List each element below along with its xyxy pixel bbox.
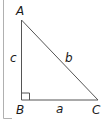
right-triangle-diagram: A B C c b a bbox=[0, 0, 107, 129]
vertex-a-label: A bbox=[15, 4, 24, 18]
side-b-label: b bbox=[65, 51, 73, 65]
vertex-c-label: C bbox=[92, 103, 101, 117]
triangle-svg: A B C c b a bbox=[0, 0, 107, 129]
side-c-label: c bbox=[10, 51, 17, 65]
vertex-b-label: B bbox=[16, 103, 24, 117]
right-angle-marker bbox=[22, 93, 30, 100]
side-b-line bbox=[22, 20, 99, 100]
side-a-label: a bbox=[56, 102, 63, 116]
